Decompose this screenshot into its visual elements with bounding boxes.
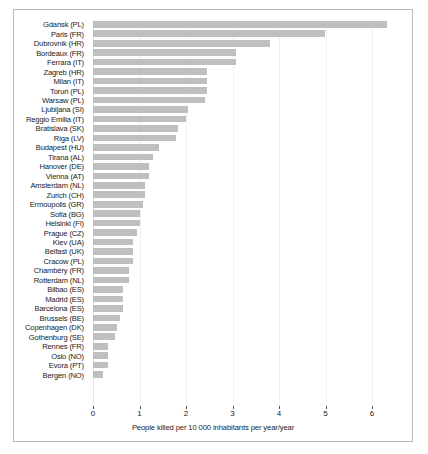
category-label: Madrid (ES) [14,295,88,304]
bar-row [93,351,400,360]
bar [93,352,108,359]
x-tick-label-2: 2 [184,409,188,418]
category-label: Barcelona (ES) [14,304,88,313]
category-label-text: Brussels (BE) [40,314,84,323]
category-label-text: Bordeaux (FR) [36,49,84,58]
category-label: Vienna (AT) [14,172,88,181]
bar [93,333,115,340]
category-label: Warsaw (PL) [14,96,88,105]
bar-row [93,96,400,105]
category-label-text: Kiev (UA) [53,238,84,247]
category-label-text: Zurich (CH) [46,191,84,200]
category-label-text: Amsterdam (NL) [30,181,84,190]
x-tick-label-0: 0 [91,409,95,418]
category-label-text: Helsinki (FI) [45,219,84,228]
bar [93,305,123,312]
bar [93,315,120,322]
category-label-text: Prague (CZ) [44,229,84,238]
bar [93,135,176,142]
bar-row [93,77,400,86]
bar-row [93,134,400,143]
bar-row [93,190,400,199]
category-label: Hanover (DE) [14,162,88,171]
bar-row [93,200,400,209]
category-label-text: Gdańsk (PL) [43,20,84,29]
bar [93,343,108,350]
bar [93,163,149,170]
bar-row [93,20,400,29]
bar-row [93,285,400,294]
category-label-text: Cracow (PL) [43,257,84,266]
category-label: Tirana (AL) [14,153,88,162]
bar [93,210,140,217]
bar-row [93,115,400,124]
category-label-text: Rotterdam (NL) [34,276,84,285]
bar-row [93,228,400,237]
bar-row [93,266,400,275]
bar-row [93,143,400,152]
bar-row [93,86,400,95]
bar [93,296,123,303]
category-label-text: Madrid (ES) [45,295,84,304]
category-label: Chambéry (FR) [14,266,88,275]
bar [93,362,108,369]
category-label: Bratislava (SK) [14,124,88,133]
x-axis: 0123456 [93,406,400,420]
category-label-text: Vienna (AT) [46,172,84,181]
category-label-text: Bratislava (SK) [36,124,84,133]
bar [93,144,159,151]
category-label: Kiev (UA) [14,238,88,247]
bar [93,49,236,56]
bar-row [93,162,400,171]
bar [93,173,149,180]
category-label-text: Sofia (BG) [50,210,84,219]
bar [93,116,186,123]
category-label: Amsterdam (NL) [14,181,88,190]
category-label: Belfast (UK) [14,247,88,256]
category-label: Ferrara (IT) [14,58,88,67]
category-label-text: Toruń (PL) [50,87,84,96]
category-label-text: Milan (IT) [53,77,84,86]
bar [93,220,140,227]
category-label-text: Rennes (FR) [42,342,84,351]
category-label-text: Hanover (DE) [39,162,84,171]
bar [93,87,207,94]
bar [93,106,188,113]
category-label: Budapest (HU) [14,143,88,152]
category-label: Gothenburg (SE) [14,332,88,341]
category-label: Sofia (BG) [14,209,88,218]
bar-row [93,219,400,228]
bar [93,59,236,66]
bar [93,191,145,198]
category-label-text: Bergen (NO) [43,371,84,380]
x-tick-label-1: 1 [137,409,141,418]
category-label: Riga (LV) [14,134,88,143]
category-label-text: Reggio Emilia (IT) [26,115,84,124]
category-label: Ermoupolis (GR) [14,200,88,209]
bar [93,258,133,265]
bar-row [93,39,400,48]
category-label-text: Ermoupolis (GR) [30,200,84,209]
category-label-text: Belfast (UK) [45,247,84,256]
bar [93,239,133,246]
x-tick-label-3: 3 [230,409,234,418]
bar [93,97,205,104]
bar [93,21,387,28]
category-label: Zagreb (HR) [14,67,88,76]
bar [93,30,325,37]
chart-figure: Gdańsk (PL)Paris (FR)Dubrovnik (HR)Borde… [13,9,413,442]
category-label: Toruń (PL) [14,86,88,95]
category-label: Brussels (BE) [14,314,88,323]
category-label-text: Evora (PT) [49,361,84,370]
bar [93,182,145,189]
bar-row [93,172,400,181]
category-label: Dubrovnik (HR) [14,39,88,48]
category-label: Zurich (CH) [14,190,88,199]
category-label: Ljubljana (SI) [14,105,88,114]
bar-row [93,361,400,370]
category-label: Bergen (NO) [14,370,88,379]
bar-row [93,257,400,266]
category-label-text: Warsaw (PL) [42,96,84,105]
category-label: Bordeaux (FR) [14,48,88,57]
bar-row [93,29,400,38]
